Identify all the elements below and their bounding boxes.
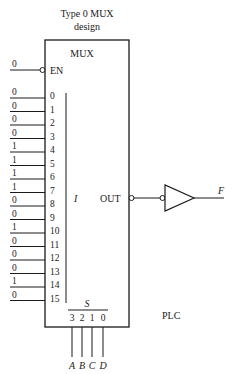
output-signal-label: F: [217, 185, 225, 196]
input-index: 2: [50, 118, 55, 128]
input-value: 1: [12, 168, 17, 178]
input-index: 5: [50, 159, 55, 169]
input-index: 4: [50, 145, 55, 155]
input-index: 3: [50, 132, 55, 142]
output-label: OUT: [100, 193, 121, 204]
input-index: 1: [50, 105, 55, 115]
select-inputs: 3A2B1C0D: [68, 313, 107, 371]
select-bit: 2: [80, 313, 85, 323]
input-index: 7: [50, 186, 55, 196]
input-value: 0: [12, 195, 17, 205]
input-value: 1: [12, 222, 17, 232]
enable-label: EN: [50, 65, 63, 76]
enable-value: 0: [12, 59, 17, 69]
select-label: S: [85, 298, 90, 309]
input-value: 0: [12, 236, 17, 246]
input-index: 0: [50, 91, 55, 101]
input-value: 0: [12, 114, 17, 124]
input-value: 1: [12, 141, 17, 151]
mux-diagram: Type 0 MUX design MUX 0 EN 0001020314151…: [0, 0, 237, 374]
input-value: 0: [12, 101, 17, 111]
input-value: 0: [12, 87, 17, 97]
select-signal: D: [98, 360, 107, 371]
input-index: 9: [50, 213, 55, 223]
input-index: 13: [50, 267, 60, 277]
input-index: 10: [50, 226, 60, 236]
plc-label: PLC: [162, 310, 181, 321]
buffer-inversion-bubble: [160, 196, 165, 201]
input-bus-label: I: [73, 193, 78, 204]
input-index: 11: [50, 240, 59, 250]
select-bit: 1: [90, 313, 95, 323]
input-value: 0: [12, 128, 17, 138]
input-value: 0: [12, 290, 17, 300]
data-inputs: 00010203141516170809110011012013114015: [10, 87, 60, 304]
select-signal: B: [79, 360, 85, 371]
input-index: 8: [50, 199, 55, 209]
input-index: 6: [50, 172, 55, 182]
select-bit: 3: [70, 313, 75, 323]
enable-inversion-bubble: [40, 68, 45, 73]
input-value: 1: [12, 155, 17, 165]
input-index: 15: [50, 294, 60, 304]
buffer-triangle-icon: [165, 185, 194, 211]
select-bit: 0: [101, 313, 106, 323]
output-inversion-bubble: [129, 196, 134, 201]
input-value: 1: [12, 182, 17, 192]
select-signal: A: [68, 360, 76, 371]
select-signal: C: [89, 360, 96, 371]
input-value: 0: [12, 249, 17, 259]
input-index: 12: [50, 253, 60, 263]
input-index: 14: [50, 280, 60, 290]
title-line1: Type 0 MUX: [60, 8, 114, 19]
mux-label: MUX: [70, 48, 94, 59]
input-value: 0: [12, 209, 17, 219]
title-line2: design: [74, 21, 100, 32]
input-value: 0: [12, 263, 17, 273]
input-value: 1: [12, 276, 17, 286]
